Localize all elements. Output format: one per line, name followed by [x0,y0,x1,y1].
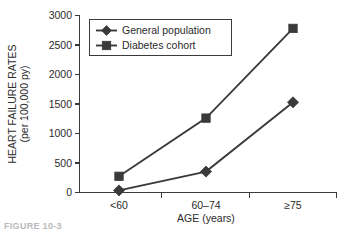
y-tick-label-0: 0 [66,186,72,198]
data-point-diabetes-cohort-60-74 [202,114,210,122]
line-chart: 3000 2500 2000 1500 1000 500 0 <60 60–74… [0,0,343,232]
y-tick-label-500: 500 [54,157,72,169]
y-tick-label-2500: 2500 [49,39,73,51]
data-point-general-population-under60 [113,185,124,196]
y-tick-label-1000: 1000 [49,127,73,139]
legend-label-general-population: General population [122,24,211,36]
legend-label-diabetes-cohort: Diabetes cohort [122,39,196,51]
data-point-diabetes-cohort-75plus [289,24,297,32]
y-axis-title-line1: HEART FAILURE RATES [6,44,18,163]
y-tick-label-1500: 1500 [49,98,73,110]
x-axis-ticks [162,193,337,198]
chart-legend: General population Diabetes cohort [90,20,232,56]
x-tick-label-60-74: 60–74 [191,199,220,211]
figure-root: 3000 2500 2000 1500 1000 500 0 <60 60–74… [0,0,343,232]
figure-caption: FIGURE 10-3 [4,221,62,232]
y-axis-title-line2: (per 100,000 py) [18,65,30,142]
y-tick-label-2000: 2000 [49,68,73,80]
x-tick-label-under60: <60 [110,199,128,211]
y-tick-label-3000: 3000 [49,9,73,21]
x-axis-title: AGE (years) [177,212,235,224]
x-tick-label-75plus: ≥75 [284,199,302,211]
data-point-diabetes-cohort-under60 [115,172,123,180]
legend-marker-square-icon [102,41,110,49]
